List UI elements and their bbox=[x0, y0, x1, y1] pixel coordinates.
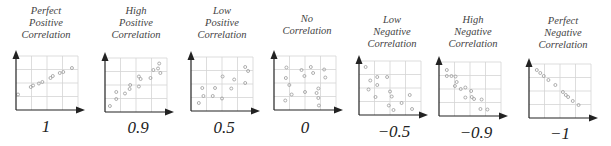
data-point bbox=[139, 78, 142, 81]
data-point bbox=[539, 72, 542, 75]
panel-title: Perfect Positive Correlation bbox=[2, 5, 90, 41]
data-point bbox=[390, 95, 393, 98]
title-line: Low bbox=[178, 5, 266, 17]
panel-title: Perfect Negative Correlation bbox=[519, 15, 607, 51]
title-line: Positive bbox=[2, 17, 90, 29]
data-point bbox=[32, 84, 35, 87]
title-line: Correlation bbox=[2, 29, 90, 41]
data-point bbox=[115, 98, 118, 101]
data-point bbox=[211, 95, 214, 98]
data-point bbox=[480, 98, 483, 101]
data-point bbox=[464, 96, 467, 99]
panel-title: Low Negative Correlation bbox=[348, 14, 436, 50]
panel-title: High Negative Correlation bbox=[429, 14, 517, 50]
data-point bbox=[58, 72, 61, 75]
data-point bbox=[567, 96, 570, 99]
data-point bbox=[300, 69, 303, 72]
title-line: High bbox=[429, 14, 517, 26]
data-point bbox=[445, 69, 448, 72]
title-line: Correlation bbox=[178, 29, 266, 41]
data-point bbox=[464, 86, 467, 89]
data-point bbox=[123, 92, 126, 95]
y-axis-arrow-icon bbox=[102, 52, 109, 61]
data-point bbox=[312, 72, 315, 75]
data-point bbox=[317, 104, 320, 107]
y-axis-arrow-icon bbox=[436, 56, 443, 65]
data-point bbox=[244, 66, 247, 69]
y-axis-arrow-icon bbox=[356, 55, 363, 64]
coefficient-value: −1 bbox=[516, 124, 604, 144]
coefficient-value: −0.9 bbox=[432, 123, 520, 143]
title-line: Negative bbox=[348, 26, 436, 38]
data-point bbox=[70, 67, 73, 70]
coefficient-value: 0 bbox=[261, 118, 349, 138]
data-point bbox=[303, 75, 306, 78]
title-line: Correlation bbox=[519, 39, 607, 51]
scatter-plot bbox=[358, 57, 430, 117]
x-axis-arrow-icon bbox=[589, 115, 598, 122]
scatter-plot bbox=[273, 52, 345, 112]
data-point bbox=[247, 70, 250, 73]
panel-low-negative: Low Negative Correlation −0.5 bbox=[344, 0, 432, 146]
data-point bbox=[445, 75, 448, 78]
y-axis-arrow-icon bbox=[188, 51, 195, 60]
data-point bbox=[214, 87, 217, 90]
data-point bbox=[202, 95, 205, 98]
data-point bbox=[408, 94, 411, 97]
data-point bbox=[284, 77, 287, 80]
data-point bbox=[137, 85, 140, 88]
data-point bbox=[554, 84, 557, 87]
coefficient-value: 0.9 bbox=[94, 118, 182, 138]
data-point bbox=[17, 93, 20, 96]
data-point bbox=[317, 97, 320, 100]
x-axis-arrow-icon bbox=[334, 107, 343, 114]
data-point bbox=[571, 100, 574, 103]
data-point bbox=[230, 87, 233, 90]
scatter-svg bbox=[190, 53, 262, 113]
title-line: Negative bbox=[519, 27, 607, 39]
title-line: Correlation bbox=[92, 29, 180, 41]
scatter-plot bbox=[438, 58, 510, 118]
data-point bbox=[324, 76, 327, 79]
scatter-svg bbox=[273, 52, 345, 112]
data-point bbox=[284, 99, 287, 102]
data-point bbox=[159, 72, 162, 75]
title-line: Positive bbox=[92, 17, 180, 29]
data-point bbox=[547, 79, 550, 82]
y-axis-arrow-icon bbox=[271, 50, 278, 59]
panel-title: No Correlation bbox=[263, 13, 351, 37]
data-point bbox=[157, 67, 160, 70]
data-point bbox=[364, 66, 367, 69]
data-point bbox=[309, 66, 312, 69]
scatter-svg bbox=[528, 60, 600, 120]
title-line: Low bbox=[348, 14, 436, 26]
data-point bbox=[473, 98, 476, 101]
scatter-svg bbox=[438, 58, 510, 118]
data-point bbox=[201, 87, 204, 90]
title-line: High bbox=[92, 5, 180, 17]
data-point bbox=[108, 105, 111, 108]
panel-high-positive: High Positive Correlation 0.9 bbox=[90, 0, 178, 146]
data-point bbox=[400, 102, 403, 105]
y-axis-arrow-icon bbox=[526, 58, 533, 67]
scatter-svg bbox=[358, 57, 430, 117]
data-point bbox=[317, 87, 320, 90]
scatter-svg bbox=[104, 54, 176, 114]
coefficient-value: 1 bbox=[2, 117, 90, 137]
title-line: Negative bbox=[429, 26, 517, 38]
data-point bbox=[369, 79, 372, 82]
data-point bbox=[577, 104, 580, 107]
data-point bbox=[479, 108, 482, 111]
y-axis-arrow-icon bbox=[13, 50, 20, 59]
data-point bbox=[450, 75, 453, 78]
scatter-plot bbox=[190, 53, 262, 113]
panel-high-negative: High Negative Correlation −0.9 bbox=[426, 0, 514, 146]
scatter-plot bbox=[528, 60, 600, 120]
data-point bbox=[367, 88, 370, 91]
scatter-svg bbox=[15, 52, 87, 112]
data-point bbox=[376, 84, 379, 87]
data-point bbox=[386, 76, 389, 79]
scatter-plot bbox=[104, 54, 176, 114]
panel-perfect-positive: Perfect Positive Correlation 1 bbox=[0, 0, 88, 146]
data-point bbox=[115, 91, 118, 94]
